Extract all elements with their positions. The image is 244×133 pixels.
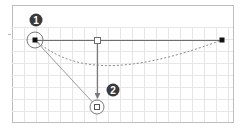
step-badge-2-label: 2 xyxy=(110,85,116,96)
dragged-handle[interactable] xyxy=(95,105,100,110)
step-badge-1: 1 xyxy=(30,14,43,27)
step-badge-1-label: 1 xyxy=(33,15,39,26)
step-badge-2: 2 xyxy=(107,84,120,97)
bezier-diagram: 1 2 xyxy=(0,0,244,133)
end-anchor-point[interactable] xyxy=(220,38,225,43)
start-anchor-point[interactable] xyxy=(33,38,38,43)
midpoint-handle[interactable] xyxy=(95,38,101,44)
